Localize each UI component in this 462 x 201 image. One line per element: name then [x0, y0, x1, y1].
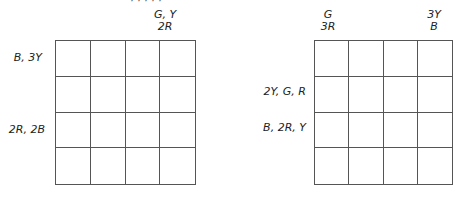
- grid-cell: [315, 77, 349, 113]
- grid-cell: [315, 41, 349, 77]
- left-grid-side-label-row3: 2R, 2B: [0, 124, 45, 136]
- grid-cell: [56, 41, 91, 77]
- grid-cell: [126, 148, 161, 184]
- right-top-label-line2: 3R: [308, 21, 348, 33]
- grid-cell: [160, 77, 195, 113]
- grid-cell: [126, 113, 161, 149]
- right-grid-side-label-row2: 2Y, G, R: [246, 86, 306, 98]
- left-grid-side-label-row1: B, 3Y: [0, 52, 42, 64]
- grid-cell: [418, 113, 452, 149]
- clipped-caption: · · · · ·: [130, 0, 161, 4]
- grid-cell: [418, 77, 452, 113]
- grid-cell: [126, 41, 161, 77]
- grid-cell: [384, 77, 418, 113]
- grid-cell: [349, 113, 383, 149]
- grid-cell: [315, 148, 349, 184]
- grid-cell: [91, 77, 126, 113]
- grid-cell: [315, 113, 349, 149]
- grid-cell: [384, 113, 418, 149]
- grid-cell: [384, 148, 418, 184]
- left-top-label-line2: 2R: [145, 21, 185, 33]
- right-grid: [314, 40, 453, 185]
- grid-cell: [349, 77, 383, 113]
- grid-cell: [91, 148, 126, 184]
- grid-cell: [160, 113, 195, 149]
- grid-cell: [56, 77, 91, 113]
- grid-cell: [349, 41, 383, 77]
- grid-cell: [91, 41, 126, 77]
- grid-cell: [418, 41, 452, 77]
- left-grid-top-label-col3: G, Y 2R: [145, 9, 185, 33]
- right-grid-side-label-row3: B, 2R, Y: [246, 122, 306, 134]
- grid-cell: [349, 148, 383, 184]
- right-grid-top-label-col1: G 3R: [308, 9, 348, 33]
- grid-cell: [160, 148, 195, 184]
- right-grid-top-label-col4: 3Y B: [414, 9, 454, 33]
- grid-cell: [384, 41, 418, 77]
- grid-cell: [56, 148, 91, 184]
- grid-cell: [56, 113, 91, 149]
- grid-cell: [418, 148, 452, 184]
- grid-cell: [91, 113, 126, 149]
- right-top-label-line2: B: [414, 21, 454, 33]
- grid-cell: [126, 77, 161, 113]
- grid-cell: [160, 41, 195, 77]
- left-grid: [55, 40, 196, 185]
